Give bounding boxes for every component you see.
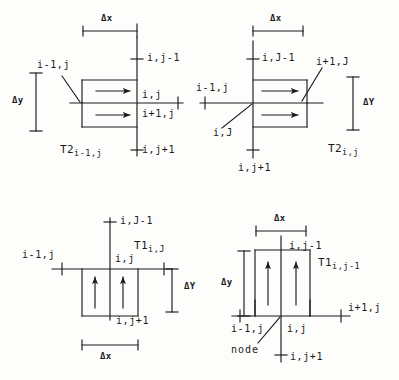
- tr-node-left-label: i-1,j: [196, 83, 229, 93]
- bl-delta-y-label: ΔY: [184, 282, 195, 291]
- tr-delta-x-label: Δx: [270, 14, 281, 23]
- bl-node-left-label: i-1,j: [22, 250, 55, 260]
- tr-node-right-leader-label: i+1,J: [316, 57, 349, 67]
- bl-node-bottom-label: i,j+1: [116, 316, 149, 326]
- br-node-annotation-label: node: [231, 345, 259, 355]
- br-delta-y-label: Δy: [221, 278, 232, 287]
- br-node-right-label: i+1,j: [348, 303, 381, 313]
- tr-node-top-label: i,J-1: [262, 53, 295, 63]
- tl-delta-x-label: Δx: [101, 14, 112, 23]
- br-transmissibility-base: T1: [318, 256, 332, 269]
- tr-transmissibility-label: T2i,j: [328, 143, 359, 154]
- finite-difference-stencil-figure: Δx Δy i,j-1 i-1,j i,j i+1,j i,j+1 T2i-1,…: [0, 0, 399, 380]
- panel-bottom-left-lines: [52, 218, 178, 350]
- tl-transmissibility-base: T2: [60, 143, 74, 156]
- br-node-center-label: i,j: [287, 324, 307, 334]
- tr-delta-y-label: ΔY: [363, 98, 374, 107]
- br-node-bottom-label: i,j+1: [290, 352, 323, 362]
- tl-node-center-label: i,j: [142, 90, 162, 100]
- tl-delta-y-label: Δy: [12, 96, 23, 105]
- bl-transmissibility-subscript: i,J: [148, 244, 165, 254]
- tl-node-left-leader-label: i-1,j: [37, 60, 70, 70]
- tr-node-bottom-label: i,j+1: [238, 163, 271, 173]
- tl-node-bottom-label: i,j+1: [142, 145, 175, 155]
- bl-node-top-label: i,J-1: [120, 216, 153, 226]
- tl-transmissibility-label: T2i-1,j: [60, 144, 102, 155]
- tr-transmissibility-base: T2: [328, 142, 342, 155]
- bl-node-center-label: i,j: [115, 254, 135, 264]
- br-transmissibility-subscript: i,j-1: [332, 261, 360, 271]
- bl-delta-x-label: Δx: [100, 352, 111, 361]
- tr-transmissibility-subscript: i,j: [342, 147, 359, 157]
- br-transmissibility-label: T1i,j-1: [318, 257, 360, 268]
- br-node-top-label: i,j-1: [289, 241, 322, 251]
- br-node-left-label: i-1,j: [231, 324, 264, 334]
- tl-node-top-label: i,j-1: [147, 53, 180, 63]
- bl-transmissibility-base: T1: [134, 239, 148, 252]
- tl-node-below-center-label: i+1,j: [142, 109, 175, 119]
- tr-node-center-leader-label: i,J: [213, 128, 233, 138]
- br-delta-x-label: Δx: [274, 214, 285, 223]
- bl-transmissibility-label: T1i,J: [134, 240, 165, 251]
- tl-transmissibility-subscript: i-1,j: [74, 148, 102, 158]
